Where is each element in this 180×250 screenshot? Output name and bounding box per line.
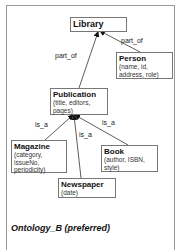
edge-label-newspaper-publication: is_a (79, 131, 92, 138)
node-attributes: (author, ISBN, style) (104, 156, 155, 171)
node-attributes: (category, issueNo, periodicity) (14, 151, 64, 173)
edge-label-magazine-publication: is_a (35, 121, 48, 128)
edge-magazine-publication (45, 115, 73, 140)
node-title: Newspaper (61, 180, 113, 189)
edge-label-publication-library: part_of (55, 52, 77, 59)
node-library: Library (70, 17, 127, 32)
node-newspaper: Newspaper (date) (58, 178, 116, 198)
edge-publication-library (79, 32, 98, 88)
node-book: Book (author, ISBN, style) (101, 145, 158, 172)
node-attributes: (name, id, address, role) (119, 63, 170, 78)
node-title: Book (104, 147, 155, 156)
node-title: Magazine (14, 142, 64, 151)
node-title: Publication (53, 90, 105, 99)
node-person: Person (name, id, address, role) (116, 52, 173, 79)
edge-label-person-library: part_of (121, 37, 143, 44)
edge-label-book-publication: is_a (102, 119, 115, 126)
node-publication: Publication (title, editors, pages) (50, 88, 108, 115)
diagram-caption: Ontology_B (preferred) (11, 223, 110, 233)
node-title: Person (119, 54, 170, 63)
node-attributes: (title, editors, pages) (53, 99, 105, 114)
edge-newspaper-publication (74, 115, 81, 178)
node-title: Library (73, 19, 124, 29)
node-magazine: Magazine (category, issueNo, periodicity… (11, 140, 67, 173)
node-attributes: (date) (61, 189, 113, 196)
